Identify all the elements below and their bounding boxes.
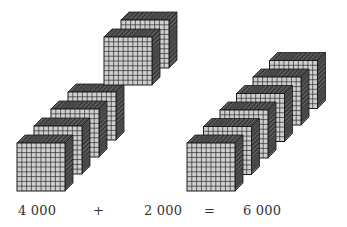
thousand-cube [187,135,243,191]
sum-6000-label: 6 000 [243,203,281,218]
thousand-cube [104,29,160,85]
plus-sign: + [93,203,104,218]
thousand-cube [17,135,73,191]
base-ten-cubes-figure [0,0,347,227]
equals-sign: = [204,203,215,218]
addend-2000-label: 2 000 [144,203,182,218]
addend-4000-label: 4 000 [18,203,56,218]
cube-stacks [17,12,326,191]
